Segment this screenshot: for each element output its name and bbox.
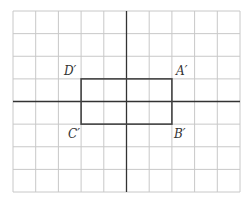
vertex-label-d-prime: D′ [63, 64, 77, 78]
axes [13, 11, 240, 192]
vertex-label-b-prime: B′ [173, 127, 186, 141]
vertex-label-c-prime: C′ [68, 127, 80, 141]
vertex-label-a-prime: A′ [175, 64, 188, 78]
coordinate-grid-diagram: D′ A′ C′ B′ [0, 0, 252, 204]
